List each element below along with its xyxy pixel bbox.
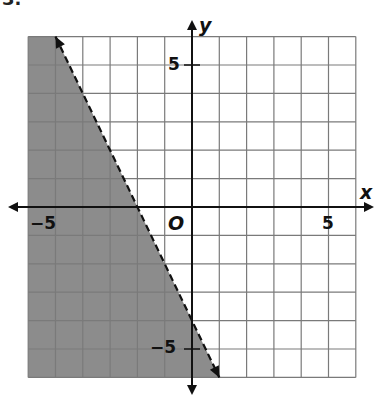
y-axis-down-arrow-icon <box>187 385 197 395</box>
y-tick-label-5: 5 <box>168 54 180 74</box>
x-axis-left-arrow-icon <box>8 202 18 212</box>
x-axis-right-arrow-icon <box>364 202 374 212</box>
origin-label: O <box>168 212 184 234</box>
x-tick-label-neg5: −5 <box>30 213 56 233</box>
y-axis-up-arrow-icon <box>187 20 197 30</box>
y-axis-label: y <box>199 14 211 36</box>
y-tick-label-neg5: −5 <box>150 337 176 357</box>
x-tick-label-5: 5 <box>322 213 334 233</box>
coordinate-plane <box>0 0 377 396</box>
x-axis-label: x <box>360 181 372 203</box>
